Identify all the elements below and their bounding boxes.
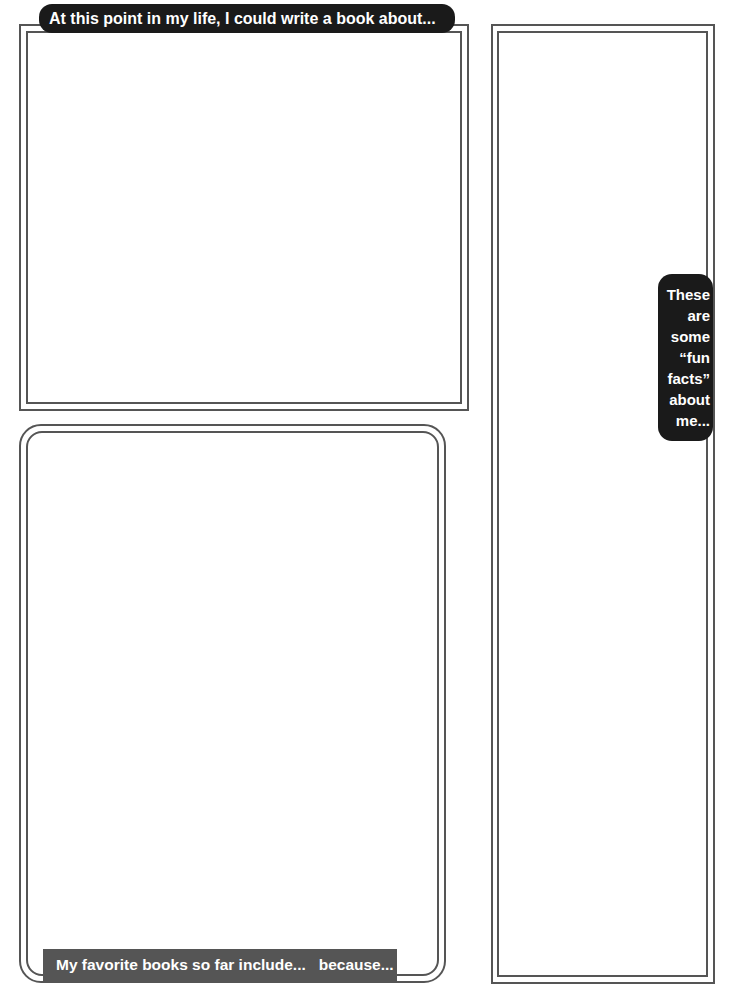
- fun-facts-prompt-line: about: [658, 389, 710, 410]
- favorite-books-inner-border: [26, 431, 439, 976]
- book-topic-inner-border: [26, 31, 462, 404]
- fun-facts-prompt: These are some “fun facts” about me...: [658, 274, 713, 441]
- book-topic-prompt: At this point in my life, I could write …: [39, 4, 455, 33]
- fun-facts-prompt-line: “fun: [658, 347, 710, 368]
- fun-facts-prompt-line: These: [658, 284, 710, 305]
- fun-facts-prompt-line: facts”: [658, 368, 710, 389]
- favorite-books-prompt: My favorite books so far include... beca…: [43, 949, 397, 981]
- fun-facts-prompt-line: some: [658, 326, 710, 347]
- fun-facts-prompt-line: are: [658, 305, 710, 326]
- fun-facts-inner-border: [497, 31, 708, 977]
- fun-facts-prompt-line: me...: [658, 410, 710, 431]
